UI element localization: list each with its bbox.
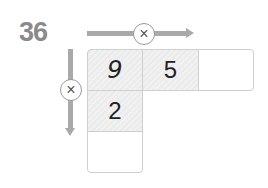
multiply-icon-vertical: ×	[60, 79, 82, 101]
answer-cell-r2-c0[interactable]	[87, 131, 143, 173]
problem-number: 36	[19, 17, 47, 48]
cell-r0-c0: 9	[87, 49, 143, 91]
arrow-right-icon	[186, 28, 194, 38]
cell-r0-c1: 5	[142, 49, 199, 91]
cell-r1-c0: 2	[87, 90, 143, 132]
multiply-icon-horizontal: ×	[133, 23, 155, 45]
arrow-down-icon	[65, 128, 75, 136]
answer-cell-r0-c2[interactable]	[198, 49, 254, 91]
